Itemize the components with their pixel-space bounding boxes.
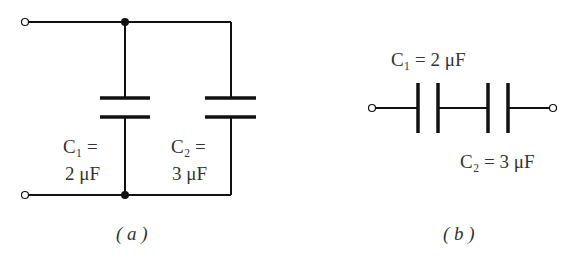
parallel-circuit	[22, 18, 257, 199]
junction-dot-top	[121, 18, 129, 26]
terminal-left	[369, 105, 376, 112]
caption-a: ( a )	[116, 223, 148, 245]
terminal-bottom	[22, 192, 29, 199]
series-circuit	[369, 83, 557, 133]
series-c2-label: C₂ = 3 μF	[460, 152, 535, 171]
terminal-top	[22, 19, 29, 26]
c1-label-line2: 2 μF	[65, 164, 100, 183]
terminal-right	[550, 105, 557, 112]
series-c1-label: C₁ = 2 μF	[391, 50, 466, 69]
junction-dot-bottom	[121, 191, 129, 199]
circuit-diagram	[0, 0, 565, 263]
c1-label-line1: C₁ =	[63, 137, 98, 156]
caption-b: ( b )	[443, 223, 475, 245]
c2-label-line2: 3 μF	[172, 164, 207, 183]
c2-label-line1: C₂ =	[171, 137, 206, 156]
